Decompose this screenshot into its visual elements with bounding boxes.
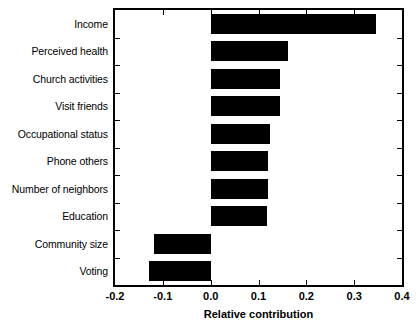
y-axis-tick: [115, 38, 120, 39]
x-axis-tick-label: 0.0: [203, 290, 218, 302]
x-axis-tick-label: -0.1: [153, 290, 172, 302]
bar-perceived-health: [211, 41, 288, 61]
bar-church-activities: [211, 69, 280, 89]
x-axis-tick: [402, 280, 403, 285]
y-axis-tick: [397, 230, 402, 231]
bar-occupational-status: [211, 124, 270, 144]
y-axis-category-labels: IncomePerceived healthChurch activitiesV…: [0, 8, 108, 287]
x-axis-tick: [211, 280, 212, 285]
y-axis-tick: [397, 175, 402, 176]
y-axis-tick: [397, 203, 402, 204]
x-axis-tick: [354, 280, 355, 285]
y-axis-tick: [397, 38, 402, 39]
y-axis-label-phone-others: Phone others: [0, 155, 108, 167]
x-axis-tick-labels: -0.2-0.10.00.10.20.30.4: [113, 290, 404, 306]
plot-frame: [113, 8, 404, 287]
bar-community-size: [154, 234, 210, 254]
x-axis-tick: [354, 10, 355, 15]
relative-contribution-bar-chart: IncomePerceived healthChurch activitiesV…: [0, 0, 417, 326]
bar-phone-others: [211, 151, 268, 171]
plot-area: [115, 10, 402, 285]
bar-visit-friends: [211, 96, 280, 116]
x-axis-tick: [306, 280, 307, 285]
y-axis-label-community-size: Community size: [0, 238, 108, 250]
x-axis-tick: [259, 10, 260, 15]
bar-voting: [149, 261, 210, 281]
y-axis-tick: [397, 93, 402, 94]
x-axis-tick: [402, 10, 403, 15]
y-axis-tick: [115, 258, 120, 259]
x-axis-tick-label: 0.2: [299, 290, 314, 302]
bar-education: [211, 206, 267, 226]
x-axis-tick-label: 0.4: [394, 290, 409, 302]
x-axis-tick: [163, 280, 164, 285]
y-axis-tick: [397, 148, 402, 149]
y-axis-tick: [115, 230, 120, 231]
y-axis-label-perceived-health: Perceived health: [0, 45, 108, 57]
y-axis-label-visit-friends: Visit friends: [0, 100, 108, 112]
x-axis-tick-label: -0.2: [106, 290, 125, 302]
x-axis-title: Relative contribution: [113, 308, 404, 320]
x-axis-tick: [259, 280, 260, 285]
y-axis-tick: [115, 203, 120, 204]
y-axis-tick: [397, 258, 402, 259]
y-axis-label-income: Income: [0, 18, 108, 30]
y-axis-label-occupational-status: Occupational status: [0, 128, 108, 140]
y-axis-label-church-activities: Church activities: [0, 73, 108, 85]
x-axis-tick: [163, 10, 164, 15]
y-axis-tick: [115, 175, 120, 176]
y-axis-tick: [115, 148, 120, 149]
bar-income: [211, 14, 377, 34]
x-axis-tick: [211, 10, 212, 15]
bar-number-of-neighbors: [211, 179, 268, 199]
x-axis-tick-label: 0.1: [251, 290, 266, 302]
y-axis-tick: [115, 93, 120, 94]
x-axis-tick: [306, 10, 307, 15]
y-axis-label-voting: Voting: [0, 265, 108, 277]
y-axis-label-education: Education: [0, 210, 108, 222]
y-axis-tick: [115, 120, 120, 121]
y-axis-tick: [397, 120, 402, 121]
y-axis-tick: [115, 65, 120, 66]
x-axis-tick-label: 0.3: [347, 290, 362, 302]
y-axis-label-number-of-neighbors: Number of neighbors: [0, 183, 108, 195]
y-axis-tick: [397, 65, 402, 66]
